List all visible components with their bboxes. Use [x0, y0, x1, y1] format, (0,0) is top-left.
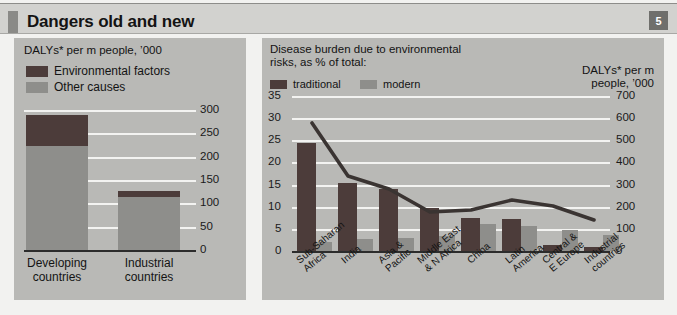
ytick-label-300: 300 — [200, 103, 219, 115]
page-number-badge: 5 — [649, 11, 668, 30]
bar-industrial-other — [118, 197, 180, 250]
header-marker-icon — [8, 11, 18, 34]
gridline-300 — [24, 110, 196, 112]
bar-developing-environmental — [26, 115, 88, 146]
ytick-label-150: 150 — [200, 173, 219, 185]
ytick-label-0: 0 — [200, 243, 206, 255]
ytick-label-50: 50 — [200, 220, 213, 232]
legend-swatch-environmental-factors — [26, 66, 48, 77]
right-chart-panel: Disease burden due to environmental risk… — [262, 38, 664, 300]
infographic-root: Dangers old and new 5 DALYs* per m peopl… — [0, 0, 677, 315]
ytick-label-100: 100 — [200, 196, 219, 208]
left-chart-title: DALYs* per m people, ’000 — [24, 44, 162, 57]
legend-item-environmental-factors: Environmental factors — [26, 64, 170, 78]
legend-swatch-other-causes — [26, 82, 48, 93]
x-axis-line — [24, 250, 196, 252]
dalys-line — [312, 123, 594, 220]
legend-label-environmental-factors: Environmental factors — [54, 64, 170, 78]
legend-label-other-causes: Other causes — [54, 80, 125, 94]
category-label-industrial-countries: Industrial countries — [112, 256, 186, 284]
page-title: Dangers old and new — [27, 12, 194, 32]
header-band: Dangers old and new 5 — [0, 4, 677, 34]
bar-developing-other — [26, 146, 88, 250]
header-rule-bottom — [0, 33, 677, 34]
ytick-label-200: 200 — [200, 150, 219, 162]
ytick-label-250: 250 — [200, 126, 219, 138]
legend-item-other-causes: Other causes — [26, 80, 125, 94]
left-chart-panel: DALYs* per m people, ’000 Environmental … — [14, 38, 246, 300]
gridline-250 — [88, 133, 196, 135]
category-label-developing-countries: Developing countries — [20, 256, 94, 284]
gridline-200 — [88, 157, 196, 159]
gridline-150 — [88, 180, 196, 182]
